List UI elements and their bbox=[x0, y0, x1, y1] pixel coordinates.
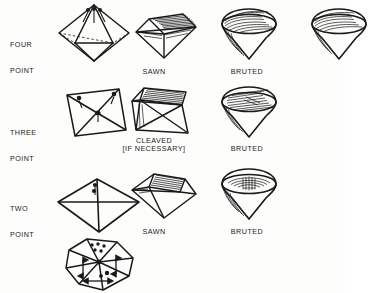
saw-striations bbox=[151, 175, 184, 189]
figure-sawn-four-point bbox=[131, 6, 201, 62]
stage-label-sawn-bottom: SAWN bbox=[142, 228, 165, 237]
stage-label-sawn-top: SAWN bbox=[142, 68, 165, 77]
row-label-two-point-line2: POINT bbox=[10, 231, 34, 240]
figure-octahedron-grain-directions bbox=[57, 236, 143, 293]
stage-label-bruted-bottom: BRUTED bbox=[231, 228, 263, 237]
row-label-three-point-line2: POINT bbox=[10, 155, 37, 164]
row-label-three-point: THREE POINT bbox=[10, 112, 37, 181]
figure-bruted-four-point-edge bbox=[306, 6, 371, 62]
figure-macle-three-point bbox=[62, 86, 132, 144]
row-label-four-point-line1: FOUR bbox=[10, 41, 34, 50]
row-label-three-point-line1: THREE bbox=[10, 129, 37, 138]
figure-bruted-three-point bbox=[216, 84, 282, 140]
row-label-two-point-line1: TWO bbox=[10, 205, 34, 214]
stage-label-cleaved-note: [IF NECESSARY] bbox=[123, 145, 186, 154]
row-label-two-point: TWO POINT bbox=[10, 188, 34, 257]
stage-label-bruted-middle: BRUTED bbox=[231, 145, 263, 154]
row-label-four-point-line2: POINT bbox=[10, 67, 34, 76]
figure-cleaved-three-point bbox=[126, 86, 198, 136]
figure-bruted-two-point bbox=[216, 166, 282, 222]
figure-bruted-four-point bbox=[216, 6, 282, 62]
figure-octahedron-four-point bbox=[55, 2, 133, 64]
figure-sawn-two-point bbox=[128, 170, 202, 226]
row-label-four-point: FOUR POINT bbox=[10, 24, 34, 93]
stage-label-bruted-top: BRUTED bbox=[231, 68, 263, 77]
table-facet-lines bbox=[228, 177, 270, 191]
